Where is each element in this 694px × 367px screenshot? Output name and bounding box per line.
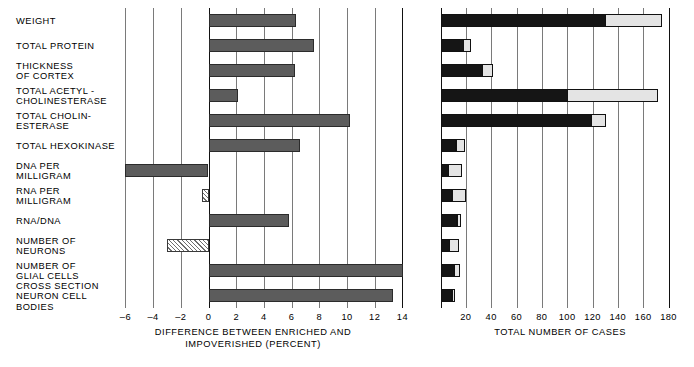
row-label: NUMBER OF NEURONS bbox=[16, 236, 206, 257]
row-label: CROSS SECTION NEURON CELL BODIES bbox=[16, 281, 206, 313]
left-bar bbox=[209, 214, 289, 227]
right-bar-segment-dark bbox=[441, 89, 568, 102]
right-bar-segment-light bbox=[454, 264, 460, 277]
right-bar-segment-light bbox=[456, 139, 465, 152]
row-label: TOTAL PROTEIN bbox=[16, 41, 206, 52]
gridline bbox=[593, 8, 594, 308]
row-label: THICKNESS OF CORTEX bbox=[16, 61, 206, 82]
right-bar-segment-light bbox=[463, 39, 471, 52]
gridline bbox=[402, 8, 403, 308]
row-label: DNA PER MILLIGRAM bbox=[16, 161, 206, 182]
right-bar-segment-light bbox=[452, 189, 466, 202]
left-bar bbox=[209, 289, 393, 302]
axis-line-left bbox=[441, 8, 442, 308]
x-tick-label: 2 bbox=[233, 312, 239, 322]
row-label: RNA/DNA bbox=[16, 216, 206, 227]
right-bar-segment-dark bbox=[441, 139, 456, 152]
right-bar-segment-dark bbox=[441, 264, 455, 277]
left-bar bbox=[209, 64, 295, 77]
left-bar bbox=[209, 139, 300, 152]
right-bar-segment-light bbox=[449, 239, 459, 252]
left-chart-axis-title: DIFFERENCE BETWEEN ENRICHED AND IMPOVERI… bbox=[108, 327, 398, 350]
gridline bbox=[264, 8, 265, 308]
right-bar-segment-light bbox=[605, 14, 662, 27]
left-bar bbox=[209, 264, 403, 277]
gridline bbox=[375, 8, 376, 308]
x-tick-label: 0 bbox=[206, 312, 212, 322]
x-tick-label: –2 bbox=[175, 312, 186, 322]
right-bar-segment-dark bbox=[441, 289, 452, 302]
right-bar-segment-dark bbox=[441, 64, 483, 77]
row-label-column: WEIGHTTOTAL PROTEINTHICKNESS OF CORTEXTO… bbox=[16, 8, 206, 308]
left-bar bbox=[209, 89, 238, 102]
right-chart-axis-title: TOTAL NUMBER OF CASES bbox=[440, 327, 680, 339]
right-bar-segment-dark bbox=[441, 214, 457, 227]
gridline bbox=[466, 8, 467, 308]
x-tick-label: 14 bbox=[397, 312, 408, 322]
gridline bbox=[618, 8, 619, 308]
x-tick-label: –6 bbox=[120, 312, 131, 322]
left-bar bbox=[209, 14, 296, 27]
right-bar-segment-dark bbox=[441, 14, 606, 27]
x-tick-label: 120 bbox=[584, 312, 601, 322]
x-tick-label: 12 bbox=[369, 312, 380, 322]
x-tick-label: 10 bbox=[341, 312, 352, 322]
x-tick-label: 160 bbox=[635, 312, 652, 322]
x-tick-label: 4 bbox=[261, 312, 267, 322]
x-tick-label: –4 bbox=[148, 312, 159, 322]
gridline bbox=[319, 8, 320, 308]
right-bar-segment-light bbox=[567, 89, 658, 102]
x-tick-label: 80 bbox=[536, 312, 547, 322]
gridline bbox=[643, 8, 644, 308]
gridline bbox=[567, 8, 568, 308]
x-tick-label: 6 bbox=[289, 312, 295, 322]
x-tick-label: 180 bbox=[660, 312, 677, 322]
gridline bbox=[491, 8, 492, 308]
right-bar-segment-dark bbox=[441, 164, 449, 177]
right-bar-segment-dark bbox=[441, 189, 452, 202]
right-bar-segment-dark bbox=[441, 239, 450, 252]
x-tick-label: 40 bbox=[486, 312, 497, 322]
gridline bbox=[542, 8, 543, 308]
figure-bar-chart-pair: WEIGHTTOTAL PROTEINTHICKNESS OF CORTEXTO… bbox=[0, 0, 694, 367]
x-tick-label: 100 bbox=[559, 312, 576, 322]
row-label: TOTAL ACETYL - CHOLINESTERASE bbox=[16, 86, 206, 107]
right-bar-segment-light bbox=[457, 214, 461, 227]
x-tick-label: 60 bbox=[511, 312, 522, 322]
right-bar-segment-dark bbox=[441, 39, 464, 52]
gridline bbox=[517, 8, 518, 308]
right-bar-segment-light bbox=[482, 64, 493, 77]
row-label: RNA PER MILLIGRAM bbox=[16, 186, 206, 207]
left-bar bbox=[209, 114, 350, 127]
left-bar bbox=[209, 39, 314, 52]
right-bar-segment-light bbox=[452, 289, 455, 302]
gridline bbox=[209, 8, 210, 308]
row-label: WEIGHT bbox=[16, 16, 206, 27]
gridline bbox=[347, 8, 348, 308]
right-bar-segment-dark bbox=[441, 114, 592, 127]
gridline bbox=[292, 8, 293, 308]
right-bar-segment-light bbox=[591, 114, 606, 127]
x-tick-label: 8 bbox=[317, 312, 323, 322]
x-tick-label: 140 bbox=[609, 312, 626, 322]
right-bar-segment-light bbox=[448, 164, 462, 177]
row-label: TOTAL CHOLIN- ESTERASE bbox=[16, 111, 206, 132]
row-label: NUMBER OF GLIAL CELLS bbox=[16, 261, 206, 282]
x-tick-label: 20 bbox=[460, 312, 471, 322]
gridline bbox=[236, 8, 237, 308]
row-label: TOTAL HEXOKINASE bbox=[16, 141, 206, 152]
gridline bbox=[669, 8, 670, 308]
